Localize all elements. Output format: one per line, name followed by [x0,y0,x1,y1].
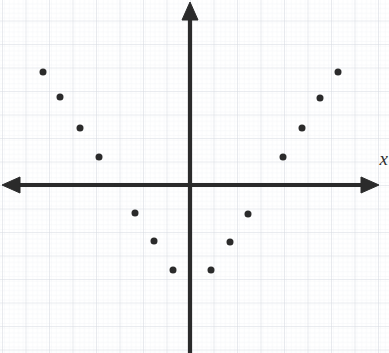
data-point [77,125,84,132]
data-point [57,94,64,101]
data-point [114,183,118,187]
data-point [188,298,192,302]
data-point [335,69,342,76]
data-points-layer [0,0,389,353]
data-point [280,154,287,161]
data-point [299,125,306,132]
data-point [317,95,324,102]
data-point [245,211,252,218]
data-point [132,210,139,217]
data-point [96,154,103,161]
data-point [227,239,234,246]
data-point [208,267,215,274]
x-axis-label: x [380,149,388,168]
data-point [151,238,158,245]
data-point [170,267,177,274]
scatter-plot-figure: x [0,0,389,353]
data-point [262,183,266,187]
data-point [40,69,47,76]
